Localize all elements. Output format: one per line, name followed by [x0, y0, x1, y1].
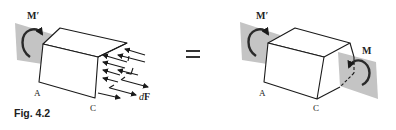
label-moment-left: M′ [256, 10, 268, 21]
label-moment: M′ [27, 10, 39, 21]
label-point-a: A [259, 88, 266, 98]
left-diagram: M′ A C dF [15, 10, 150, 113]
section-plane-right [338, 52, 378, 99]
label-point-a: A [34, 88, 41, 98]
figure-caption: Fig. 4.2 [14, 107, 50, 119]
label-moment-right: M [362, 45, 372, 56]
label-point-c: C [90, 103, 96, 113]
figure-4-2: M′ A C dF Fig. 4.2 M′ [0, 0, 396, 130]
right-diagram: M′ M A C [240, 10, 378, 113]
label-force: dF [139, 91, 150, 102]
beam-block [39, 28, 127, 98]
label-point-c: C [313, 103, 319, 113]
equals-sign [186, 50, 200, 58]
